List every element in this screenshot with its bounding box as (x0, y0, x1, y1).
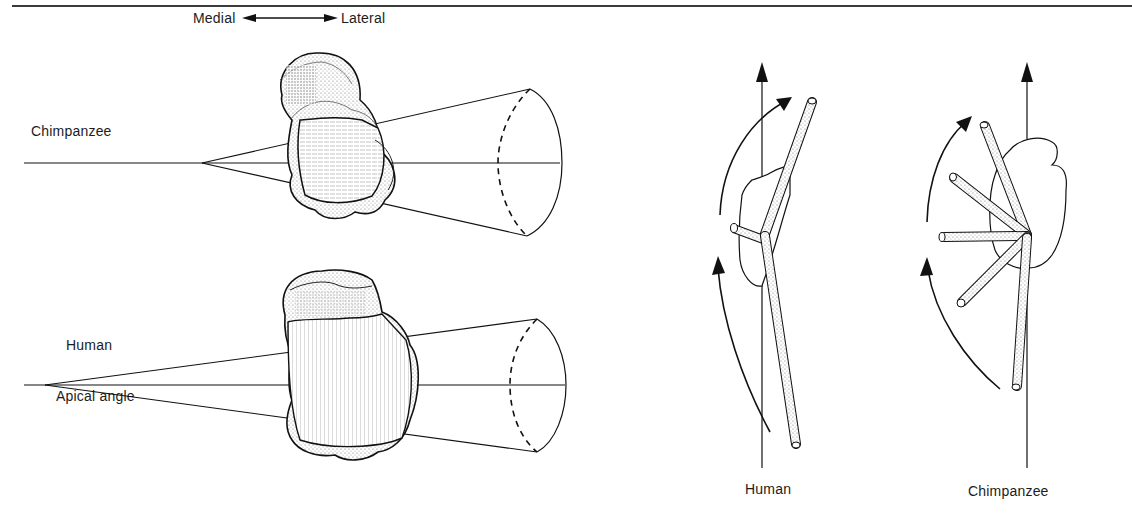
human-talus-bone (283, 270, 418, 460)
chimpanzee-axis-arrow-icon (1021, 62, 1033, 82)
human-rotation-upper-arrow-icon (776, 97, 792, 111)
cropped-caption-fragment (0, 518, 1132, 526)
human-rotation-lower-arrow-icon (712, 256, 725, 275)
human-axis-arrow-icon (756, 62, 768, 82)
chimpanzee-foot-diagram (920, 62, 1066, 468)
chimpanzee-rotation-lower-arrow-icon (920, 257, 933, 276)
figure-drawing (0, 0, 1132, 526)
medial-lateral-arrow-icon (242, 14, 338, 22)
human-foot-diagram (712, 62, 816, 468)
chimpanzee-talus-bone (280, 53, 395, 219)
